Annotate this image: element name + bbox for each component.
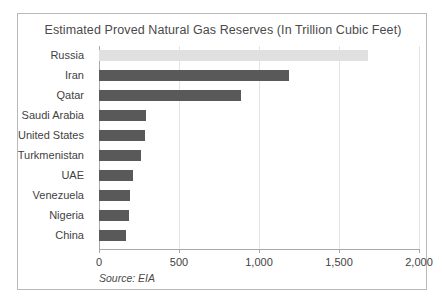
bar-row: UAE [99,166,419,186]
bar-row: Venezuela [99,186,419,206]
category-label: Venezuela [0,190,84,201]
bar [99,230,126,241]
bar [99,150,141,161]
category-label: United States [0,130,84,141]
bar-row: Nigeria [99,206,419,226]
bar-row: Turkmenistan [99,146,419,166]
bar [99,210,129,221]
gridline [419,46,420,249]
bar [99,110,146,121]
x-axis-tick [419,249,420,253]
bar [99,50,368,61]
bar [99,130,145,141]
bar-row: Iran [99,66,419,86]
x-axis-tick [99,249,100,253]
bar-row: Saudi Arabia [99,106,419,126]
category-label: Turkmenistan [0,150,84,161]
source-note: Source: EIA [99,272,155,284]
bar-row: Qatar [99,86,419,106]
plot-area: RussiaIranQatarSaudi ArabiaUnited States… [99,46,419,249]
category-label: Saudi Arabia [0,110,84,121]
bar-row: China [99,226,419,246]
x-axis-tick [179,249,180,253]
bar-row: Russia [99,46,419,66]
chart-frame: Estimated Proved Natural Gas Reserves (I… [17,13,427,290]
category-label: Iran [0,70,84,81]
chart-title: Estimated Proved Natural Gas Reserves (I… [18,23,428,37]
bar-row: United States [99,126,419,146]
category-label: Russia [0,50,84,61]
x-axis-tick-label: 1,000 [229,256,289,268]
x-axis-tick-label: 500 [149,256,209,268]
x-axis-tick [259,249,260,253]
bar [99,170,133,181]
bar [99,70,289,81]
category-label: Nigeria [0,210,84,221]
x-axis-tick [339,249,340,253]
x-axis-tick-label: 0 [69,256,129,268]
category-label: China [0,230,84,241]
x-axis-tick-label: 2,000 [389,256,442,268]
x-axis-tick-label: 1,500 [309,256,369,268]
category-label: UAE [0,170,84,181]
bar [99,190,130,201]
category-label: Qatar [0,90,84,101]
bar [99,90,241,101]
